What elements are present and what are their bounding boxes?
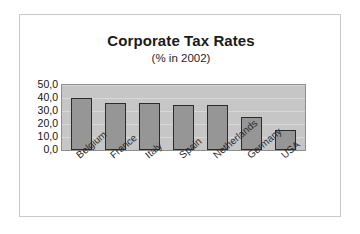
- chart-subtitle: (% in 2002): [20, 52, 342, 64]
- y-axis-tick-label: 40,0: [20, 92, 58, 102]
- chart-title: Corporate Tax Rates: [20, 32, 342, 49]
- y-axis-tick-label: 10,0: [20, 131, 58, 141]
- y-axis-tick-label: 30,0: [20, 105, 58, 115]
- y-axis-tick-label: 20,0: [20, 118, 58, 128]
- chart-frame: Corporate Tax Rates (% in 2002) 50,040,0…: [19, 14, 341, 217]
- chart-figure: Corporate Tax Rates (% in 2002) 50,040,0…: [0, 0, 360, 234]
- y-axis-tick-label: 50,0: [20, 79, 58, 89]
- y-axis: 50,040,030,020,010,00,0: [20, 77, 58, 157]
- y-axis-tick-label: 0,0: [20, 144, 58, 154]
- x-axis: BelgiumFranceItalySpainNetherlandsGerman…: [61, 152, 306, 214]
